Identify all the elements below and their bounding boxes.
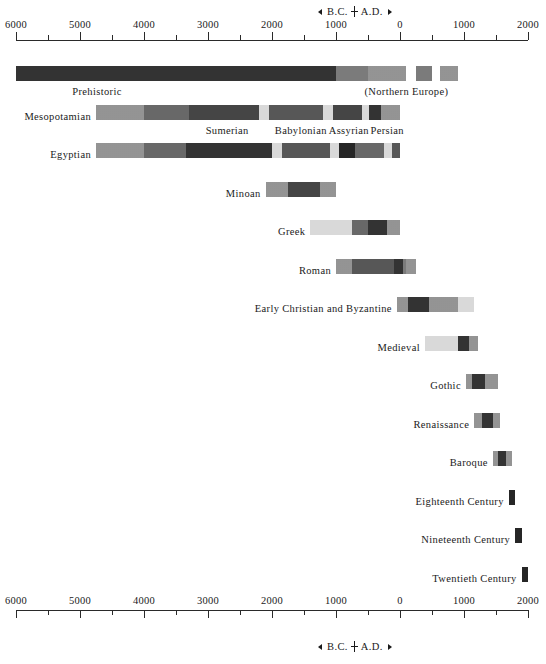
era-bar-segment[interactable] <box>394 259 404 274</box>
axis-tick-minor <box>304 35 305 40</box>
era-bar-segment[interactable] <box>186 143 272 158</box>
era-bar-segment[interactable] <box>16 66 336 81</box>
era-row[interactable]: MesopotamianSumerianBabylonianAssyrianPe… <box>0 105 546 127</box>
era-row[interactable]: Baroque <box>0 451 546 473</box>
axis-tick-minor <box>432 35 433 40</box>
era-bar-segment[interactable] <box>330 143 340 158</box>
axis-tick-major <box>400 32 401 40</box>
era-bar-segment[interactable] <box>339 143 355 158</box>
era-bar-segment[interactable] <box>493 413 501 428</box>
era-bar-segment[interactable] <box>282 143 330 158</box>
era-bar-segment[interactable] <box>336 259 352 274</box>
era-row[interactable]: Twentieth Century <box>0 567 546 589</box>
era-bar-segment[interactable] <box>482 413 493 428</box>
axis-tick-minor <box>432 610 433 615</box>
era-bar-segment[interactable] <box>406 259 416 274</box>
era-row[interactable]: Early Christian and Byzantine <box>0 297 546 319</box>
era-bar-segment[interactable] <box>369 105 381 120</box>
axis-tick-label: 6000 <box>5 19 27 30</box>
era-bar-segment[interactable] <box>515 528 521 543</box>
axis-tick-minor <box>368 610 369 615</box>
era-bar-segment[interactable] <box>429 297 458 312</box>
era-bar-segment[interactable] <box>485 374 498 389</box>
era-bar-segment[interactable] <box>144 143 186 158</box>
axis-tick-major <box>272 610 273 618</box>
era-bar-segment[interactable] <box>458 336 470 351</box>
era-row[interactable]: Nineteenth Century <box>0 528 546 550</box>
axis-tick-label: 2000 <box>517 595 539 606</box>
era-bar-segment[interactable] <box>472 374 485 389</box>
era-bar-segment[interactable] <box>387 220 400 235</box>
era-bar-segment[interactable] <box>352 259 394 274</box>
era-bar-segment[interactable] <box>458 297 474 312</box>
era-bar-segment[interactable] <box>336 66 368 81</box>
era-bar-segment[interactable] <box>522 567 528 582</box>
era-bar-segment[interactable] <box>408 297 429 312</box>
era-row[interactable]: Egyptian <box>0 143 546 165</box>
axis-tick-label: 3000 <box>197 595 219 606</box>
era-bar-segment[interactable] <box>381 105 400 120</box>
era-bar-segment[interactable] <box>323 105 333 120</box>
era-bar-segment[interactable] <box>509 490 515 505</box>
era-bar-segment[interactable] <box>362 105 370 120</box>
era-bar-segment[interactable] <box>469 336 478 351</box>
era-bar-segment[interactable] <box>96 105 144 120</box>
axis-tick-minor <box>48 610 49 615</box>
era-label: Roman <box>299 264 331 275</box>
era-bar-segment[interactable] <box>368 66 406 81</box>
era-bar-segment[interactable] <box>269 105 323 120</box>
axis-tick-label: 5000 <box>69 19 91 30</box>
era-bar-segment[interactable] <box>440 66 458 81</box>
axis-tick-minor <box>176 610 177 615</box>
axis-tick-minor <box>368 35 369 40</box>
ad-arrow-icon <box>388 9 392 15</box>
era-bar-segment[interactable] <box>368 220 387 235</box>
bc-label: B.C. <box>327 6 348 17</box>
era-bar-segment[interactable] <box>397 297 408 312</box>
axis-tick-label: 2000 <box>261 595 283 606</box>
era-bar-segment[interactable] <box>416 66 432 81</box>
era-bar-segment[interactable] <box>352 220 368 235</box>
era-bar-segment[interactable] <box>333 105 362 120</box>
axis-tick-label: 1000 <box>325 19 347 30</box>
era-bar-segment[interactable] <box>355 143 384 158</box>
era-bar-segment[interactable] <box>392 143 400 158</box>
era-bar-segment[interactable] <box>425 336 458 351</box>
era-row[interactable]: Minoan <box>0 182 546 204</box>
era-bar-segment[interactable] <box>498 451 506 466</box>
era-bar-segment[interactable] <box>96 143 144 158</box>
era-divider-icon <box>351 6 358 17</box>
era-row[interactable]: Roman <box>0 259 546 281</box>
era-row[interactable]: Gothic <box>0 374 546 396</box>
axis-tick-label: 1000 <box>453 19 475 30</box>
ad-arrow-icon <box>388 644 392 650</box>
axis-tick-minor <box>240 35 241 40</box>
bc-arrow-icon <box>318 644 322 650</box>
axis-tick-label: 5000 <box>69 595 91 606</box>
era-sub-label: Sumerian <box>206 124 249 135</box>
axis-tick-major <box>16 610 17 618</box>
era-row[interactable]: Medieval <box>0 336 546 358</box>
era-bar-segment[interactable] <box>144 105 189 120</box>
era-bar-segment[interactable] <box>272 143 282 158</box>
axis-tick-major <box>464 610 465 618</box>
era-bar-segment[interactable] <box>266 182 288 197</box>
axis-tick-minor <box>496 610 497 615</box>
era-row[interactable]: Greek <box>0 220 546 242</box>
era-bar-segment[interactable] <box>384 143 392 158</box>
era-bar-segment[interactable] <box>506 451 512 466</box>
axis-tick-label: 6000 <box>5 595 27 606</box>
era-row[interactable]: Renaissance <box>0 413 546 435</box>
bc-label: B.C. <box>327 641 348 652</box>
era-row[interactable]: Eighteenth Century <box>0 490 546 512</box>
axis-tick-label: 0 <box>397 19 403 30</box>
era-bar-segment[interactable] <box>259 105 269 120</box>
era-bar-segment[interactable] <box>189 105 259 120</box>
era-bar-segment[interactable] <box>310 220 352 235</box>
axis-tick-major <box>144 610 145 618</box>
era-bar-segment[interactable] <box>474 413 482 428</box>
era-label: Renaissance <box>413 418 469 429</box>
era-bar-segment[interactable] <box>288 182 320 197</box>
era-bar-segment[interactable] <box>320 182 336 197</box>
era-row[interactable]: Prehistoric(Northern Europe) <box>0 66 546 88</box>
